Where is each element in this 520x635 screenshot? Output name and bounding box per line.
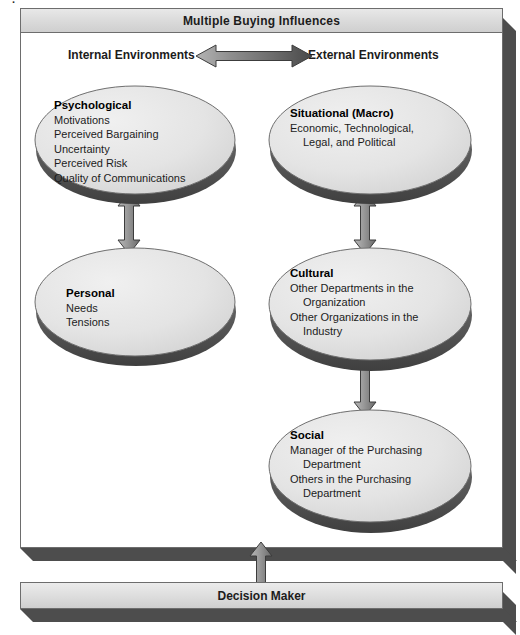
disc-situational: Situational (Macro) Economic, Technologi… bbox=[266, 82, 478, 210]
scan-artifact-fragment: . bbox=[12, 0, 15, 5]
disc-psychological-title: Psychological bbox=[54, 98, 185, 113]
internal-external-bidirectional-arrow bbox=[194, 42, 314, 70]
disc-cultural-title: Cultural bbox=[290, 266, 418, 281]
disc-situational-line-1: Legal, and Political bbox=[290, 135, 414, 150]
disc-psychological-line-2: Uncertainty bbox=[54, 142, 185, 157]
frame-title-label: Multiple Buying Influences bbox=[183, 14, 340, 28]
disc-social-title: Social bbox=[290, 428, 422, 443]
disc-psychological-line-0: Motivations bbox=[54, 113, 185, 128]
disc-cultural-line-0: Other Departments in the bbox=[290, 281, 418, 296]
external-environments-heading: External Environments bbox=[308, 48, 439, 62]
frame-title-bar: Multiple Buying Influences bbox=[21, 9, 502, 33]
disc-situational-text: Situational (Macro) Economic, Technologi… bbox=[290, 106, 414, 150]
internal-environments-heading: Internal Environments bbox=[68, 48, 195, 62]
disc-psychological-line-1: Perceived Bargaining bbox=[54, 127, 185, 142]
disc-psychological-line-3: Perceived Risk bbox=[54, 156, 185, 171]
scan-top-artifact: . bbox=[0, 0, 520, 7]
disc-personal-line-1: Tensions bbox=[66, 315, 115, 330]
disc-personal-title: Personal bbox=[66, 286, 115, 301]
disc-psychological-text: Psychological Motivations Perceived Barg… bbox=[54, 98, 185, 186]
disc-cultural-text: Cultural Other Departments in the Organi… bbox=[290, 266, 418, 339]
disc-psychological-line-4: Quality of Communications bbox=[54, 171, 185, 186]
disc-social-line-3: Department bbox=[290, 486, 422, 501]
disc-social-text: Social Manager of the Purchasing Departm… bbox=[290, 428, 422, 501]
disc-personal: Personal Needs Tensions bbox=[32, 244, 242, 372]
decision-maker-label: Decision Maker bbox=[217, 589, 305, 603]
disc-personal-line-0: Needs bbox=[66, 301, 115, 316]
decision-maker-shadow-bottom bbox=[20, 609, 517, 622]
disc-situational-line-0: Economic, Technological, bbox=[290, 121, 414, 136]
disc-social-line-0: Manager of the Purchasing bbox=[290, 443, 422, 458]
disc-cultural-line-3: Industry bbox=[290, 324, 418, 339]
disc-cultural-line-1: Organization bbox=[290, 295, 418, 310]
disc-situational-title: Situational (Macro) bbox=[290, 106, 414, 121]
disc-personal-text: Personal Needs Tensions bbox=[66, 286, 115, 330]
disc-social-line-1: Department bbox=[290, 457, 422, 472]
disc-social: Social Manager of the Purchasing Departm… bbox=[266, 406, 478, 538]
disc-cultural-line-2: Other Organizations in the bbox=[290, 310, 418, 325]
disc-social-line-2: Others in the Purchasing bbox=[290, 472, 422, 487]
frame-shadow-right bbox=[503, 18, 516, 574]
decision-maker-box: Decision Maker bbox=[20, 582, 503, 609]
disc-cultural: Cultural Other Departments in the Organi… bbox=[266, 244, 478, 376]
disc-psychological: Psychological Motivations Perceived Barg… bbox=[32, 82, 242, 210]
